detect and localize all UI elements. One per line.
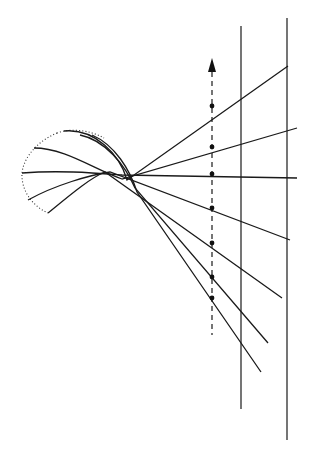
dot-3 <box>210 172 215 177</box>
dot-1 <box>210 104 215 109</box>
dot-4 <box>210 206 215 211</box>
ray-5 <box>48 172 282 298</box>
ray-4 <box>28 172 290 240</box>
dot-6 <box>210 275 215 280</box>
dot-2 <box>210 145 215 150</box>
arrow-up-icon <box>208 58 216 72</box>
ray-group <box>22 66 297 372</box>
dot-5 <box>210 241 215 246</box>
ray-diagram <box>0 0 311 461</box>
ray-3 <box>22 172 297 178</box>
ray-6 <box>80 135 268 343</box>
ray-7 <box>92 135 261 372</box>
dot-7 <box>210 296 215 301</box>
